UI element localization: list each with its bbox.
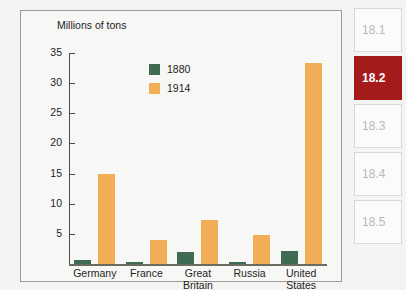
section-tab-list: 18.118.218.318.418.5 <box>354 8 402 248</box>
bar-1880 <box>229 262 246 264</box>
bar-group <box>224 53 276 264</box>
plot-area: 5101520253035 GermanyFranceGreatBritainR… <box>21 11 341 281</box>
bar-1880 <box>177 252 194 264</box>
chart-legend: 18801914 <box>149 63 190 101</box>
section-tab-label: 18.2 <box>362 71 385 85</box>
x-axis-label: Russia <box>224 268 276 280</box>
bars-layer <box>21 11 341 281</box>
section-tab-18-5[interactable]: 18.5 <box>354 200 402 244</box>
bar-1880 <box>126 262 143 264</box>
bar-1914 <box>150 240 167 264</box>
legend-swatch-icon <box>149 83 160 94</box>
x-axis-label-line: Britain <box>172 280 224 290</box>
chart-panel: Millions of tons 5101520253035 GermanyFr… <box>20 10 342 282</box>
bar-1914 <box>201 220 218 264</box>
bar-1914 <box>98 174 115 264</box>
screenshot-root: Millions of tons 5101520253035 GermanyFr… <box>0 0 406 290</box>
section-tab-label: 18.3 <box>362 119 385 133</box>
bar-1880 <box>74 260 91 264</box>
section-tab-18-4[interactable]: 18.4 <box>354 152 402 196</box>
legend-item: 1880 <box>149 63 190 75</box>
x-axis-label: UnitedStates <box>275 268 327 290</box>
bar-1914 <box>305 63 322 264</box>
section-tab-label: 18.1 <box>362 23 385 37</box>
bar-group <box>69 53 121 264</box>
x-axis-label: Germany <box>69 268 121 280</box>
section-tab-label: 18.4 <box>362 167 385 181</box>
section-tab-18-3[interactable]: 18.3 <box>354 104 402 148</box>
section-tab-18-2[interactable]: 18.2 <box>354 56 402 100</box>
x-axis-label-line: Germany <box>69 268 121 280</box>
bar-1914 <box>253 235 270 264</box>
x-axis-label-line: France <box>121 268 173 280</box>
x-axis-label-line: United <box>275 268 327 280</box>
x-axis-label: France <box>121 268 173 280</box>
legend-label: 1914 <box>167 82 190 94</box>
section-tab-label: 18.5 <box>362 215 385 229</box>
legend-swatch-icon <box>149 64 160 75</box>
x-axis-label-line: Great <box>172 268 224 280</box>
x-axis-label-line: States <box>275 280 327 290</box>
x-axis-label: GreatBritain <box>172 268 224 290</box>
section-tab-18-1[interactable]: 18.1 <box>354 8 402 52</box>
legend-label: 1880 <box>167 63 190 75</box>
bar-1880 <box>281 251 298 264</box>
legend-item: 1914 <box>149 82 190 94</box>
bar-group <box>275 53 327 264</box>
x-axis-label-line: Russia <box>224 268 276 280</box>
